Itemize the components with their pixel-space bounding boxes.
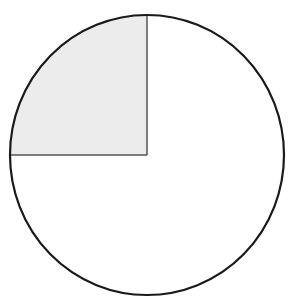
shaded-quarter (10, 15, 147, 155)
diagram-container (0, 0, 304, 308)
fraction-circle-diagram (0, 0, 304, 308)
